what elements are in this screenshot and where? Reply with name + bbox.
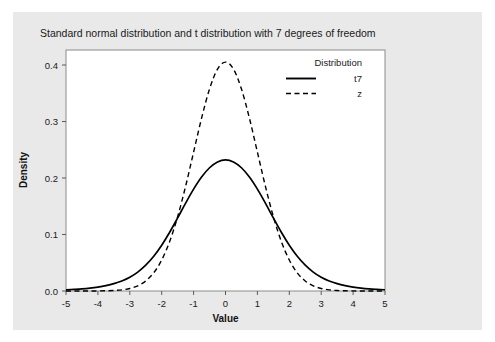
legend-label-z: z: [357, 88, 362, 99]
x-tick-label-2: -3: [126, 298, 134, 309]
y-tick-label-0: 0.0: [45, 286, 58, 297]
y-axis-ticks: 0.0 0.1 0.2 0.3 0.4: [45, 60, 66, 297]
x-tick-label-3: -2: [157, 298, 165, 309]
y-tick-label-2: 0.2: [45, 173, 58, 184]
y-tick-label-4: 0.4: [45, 60, 58, 71]
x-tick-label-0: -5: [62, 298, 70, 309]
x-axis-title: Value: [212, 313, 239, 324]
y-tick-label-1: 0.1: [45, 229, 58, 240]
figure-container: Standard normal distribution and t distr…: [0, 0, 495, 342]
legend-title: Distribution: [314, 57, 362, 68]
x-axis-ticks: -5 -4 -3 -2 -1 0 1 2 3 4 5: [62, 291, 388, 309]
x-tick-label-6: 1: [255, 298, 260, 309]
x-tick-label-5: 0: [223, 298, 228, 309]
legend-label-t7: t7: [354, 73, 362, 84]
plot-panel: [66, 50, 385, 291]
x-tick-label-9: 4: [350, 298, 355, 309]
y-tick-label-3: 0.3: [45, 116, 58, 127]
y-axis-title: Density: [18, 152, 29, 189]
density-plot: Standard normal distribution and t distr…: [0, 0, 495, 342]
x-tick-label-7: 2: [287, 298, 292, 309]
x-tick-label-4: -1: [189, 298, 197, 309]
chart-title: Standard normal distribution and t distr…: [40, 27, 376, 39]
x-tick-label-8: 3: [319, 298, 324, 309]
x-tick-label-10: 5: [382, 298, 387, 309]
x-tick-label-1: -4: [94, 298, 102, 309]
